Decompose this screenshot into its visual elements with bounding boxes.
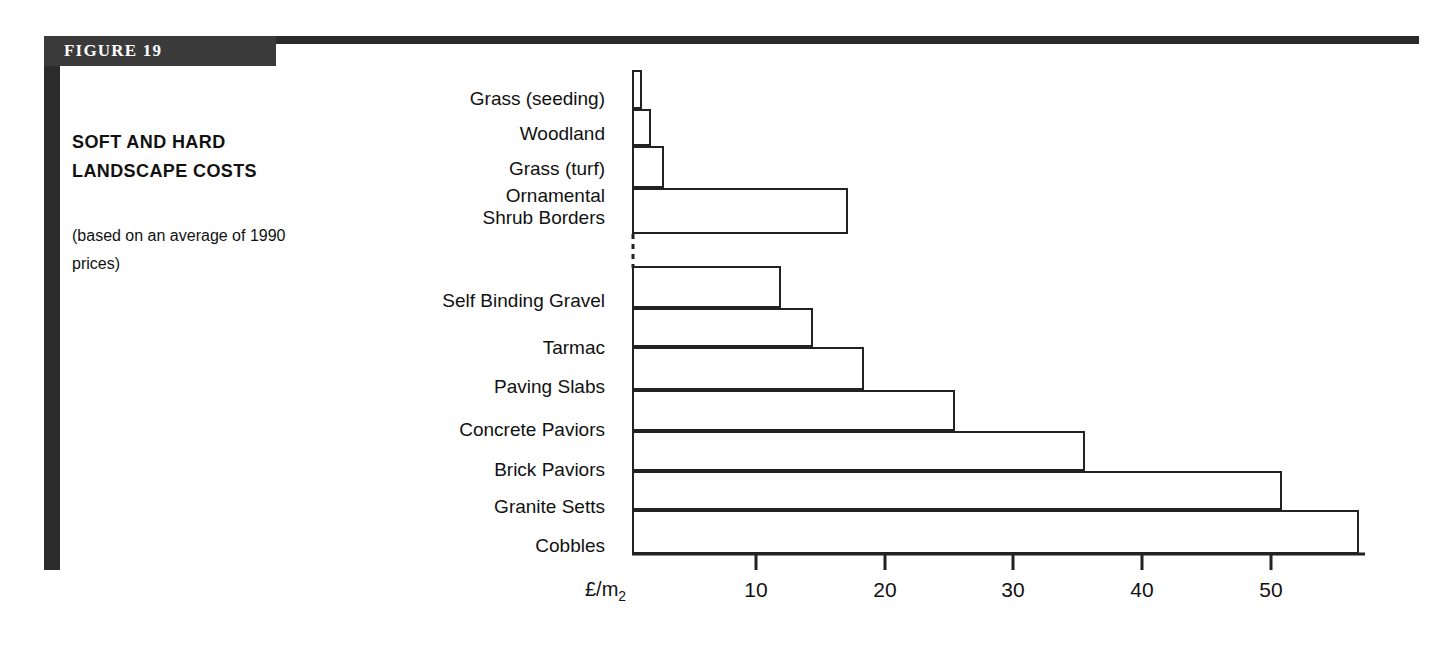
category-label-woodland: Woodland — [200, 123, 605, 145]
bar-tarmac — [632, 308, 813, 347]
bar-concrete-paviors — [632, 390, 955, 431]
bar-brick-paviors — [632, 431, 1085, 471]
bar-granite-setts — [632, 471, 1282, 510]
x-tick-20: 20 — [855, 578, 915, 602]
bar-ornamental-shrub-borders — [632, 188, 848, 234]
category-label-paving-slabs: Paving Slabs — [200, 376, 605, 398]
bar-paving-slabs — [632, 347, 864, 390]
category-label-granite-setts: Granite Setts — [200, 496, 605, 518]
bar-grass-turf — [632, 146, 664, 188]
x-tick-10: 10 — [726, 578, 786, 602]
category-label-grass-turf: Grass (turf) — [200, 158, 605, 180]
axis-break-dashed-line — [626, 234, 640, 268]
bar-chart: Grass (seeding) Woodland Grass (turf) Or… — [0, 0, 1431, 653]
category-label-ornamental-shrub-borders: Ornamental Shrub Borders — [200, 185, 605, 229]
x-tick-40: 40 — [1112, 578, 1172, 602]
category-label-brick-paviors: Brick Paviors — [200, 459, 605, 481]
x-axis-unit-label: £/m2 — [585, 578, 626, 604]
category-label-cobbles: Cobbles — [200, 535, 605, 557]
x-axis — [620, 548, 1380, 578]
x-tick-50: 50 — [1241, 578, 1301, 602]
bar-grass-seeding — [632, 70, 642, 109]
bar-self-binding-gravel — [632, 266, 781, 308]
x-axis-unit-superscript: 2 — [618, 588, 626, 604]
x-axis-unit-prefix: £/m — [585, 578, 618, 600]
category-label-grass-seeding: Grass (seeding) — [200, 88, 605, 110]
category-label-concrete-paviors: Concrete Paviors — [200, 419, 605, 441]
x-tick-30: 30 — [983, 578, 1043, 602]
bar-woodland — [632, 109, 651, 146]
category-label-tarmac: Tarmac — [200, 337, 605, 359]
category-label-self-binding-gravel: Self Binding Gravel — [200, 290, 605, 312]
